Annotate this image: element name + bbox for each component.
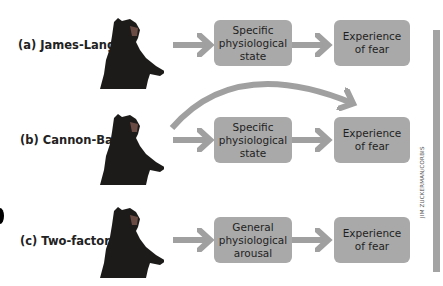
box-c-general-arousal: Generalphysiologicalarousal: [214, 217, 292, 263]
photo-credit: JIM ZUCKERMAN/CORBIS: [419, 146, 425, 218]
box-text-line: General: [219, 221, 287, 234]
box-b-specific-state: Specificphysiologicalstate: [214, 117, 292, 163]
bear-icon: [100, 203, 164, 278]
bear-icon: [100, 110, 164, 185]
box-text-line: state: [219, 147, 287, 160]
box-text-line: physiological: [219, 234, 287, 247]
box-text-line: physiological: [219, 134, 287, 147]
bear-icon: [100, 14, 164, 89]
box-text-line: physiological: [219, 37, 287, 50]
box-text-line: of fear: [343, 140, 402, 153]
box-text-line: arousal: [219, 247, 287, 260]
box-text-line: Specific: [219, 24, 287, 37]
box-text-line: Experience: [343, 227, 402, 240]
page-side-bar: [433, 30, 440, 272]
box-b-experience-of-fear: Experienceof fear: [334, 117, 410, 163]
box-text-line: Specific: [219, 121, 287, 134]
box-c-experience-of-fear: Experienceof fear: [334, 217, 410, 263]
box-text-line: Experience: [343, 127, 402, 140]
box-text-line: state: [219, 50, 287, 63]
box-a-experience-of-fear: Experienceof fear: [334, 20, 410, 66]
box-a-specific-state: Specificphysiologicalstate: [214, 20, 292, 66]
row-label-two-factor: (c) Two-factor: [20, 234, 110, 248]
box-text-line: of fear: [343, 240, 402, 253]
box-text-line: of fear: [343, 43, 402, 56]
box-text-line: Experience: [343, 30, 402, 43]
